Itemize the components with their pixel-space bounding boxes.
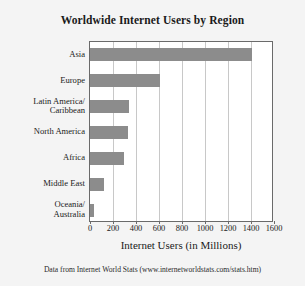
x-axis-tick-label: 200: [107, 224, 120, 233]
x-axis-tick-label: 1000: [197, 224, 214, 233]
bar-row: North America: [90, 120, 274, 146]
x-axis-tick-label: 1400: [243, 224, 260, 233]
x-axis-title: Internet Users (in Millions): [60, 239, 302, 251]
category-label: Oceania/Australia: [6, 200, 90, 219]
category-label: Latin America/Caribbean: [6, 97, 90, 116]
bar-row: Middle East: [90, 171, 274, 197]
bars-layer: AsiaEuropeLatin America/CaribbeanNorth A…: [90, 42, 272, 221]
bar: [90, 74, 160, 87]
chart-figure: Worldwide Internet Users by Region AsiaE…: [0, 0, 305, 286]
category-label: North America: [6, 128, 90, 138]
bar: [90, 100, 129, 113]
bar: [90, 126, 128, 139]
plot-area: AsiaEuropeLatin America/CaribbeanNorth A…: [89, 41, 273, 222]
x-axis-tick-label: 1200: [220, 224, 237, 233]
x-axis-tick-label: 600: [153, 224, 166, 233]
x-axis-tick-label: 1600: [266, 224, 283, 233]
category-label: Europe: [6, 76, 90, 86]
bar: [90, 48, 252, 61]
x-axis-tick-label: 800: [176, 224, 189, 233]
bar-row: Africa: [90, 145, 274, 171]
bar: [90, 152, 124, 165]
bar-row: Latin America/Caribbean: [90, 94, 274, 120]
bar-row: Asia: [90, 42, 274, 68]
x-axis-tick-label: 0: [88, 224, 92, 233]
x-axis-tick-label: 400: [130, 224, 143, 233]
chart-title: Worldwide Internet Users by Region: [0, 14, 305, 26]
category-label: Africa: [6, 154, 90, 164]
source-note: Data from Internet World Stats (www.inte…: [0, 265, 305, 274]
category-label: Asia: [6, 50, 90, 60]
bar-row: Europe: [90, 68, 274, 94]
bar-row: Oceania/Australia: [90, 197, 274, 223]
category-label: Middle East: [6, 179, 90, 189]
bar: [90, 178, 104, 191]
bar: [90, 204, 94, 217]
